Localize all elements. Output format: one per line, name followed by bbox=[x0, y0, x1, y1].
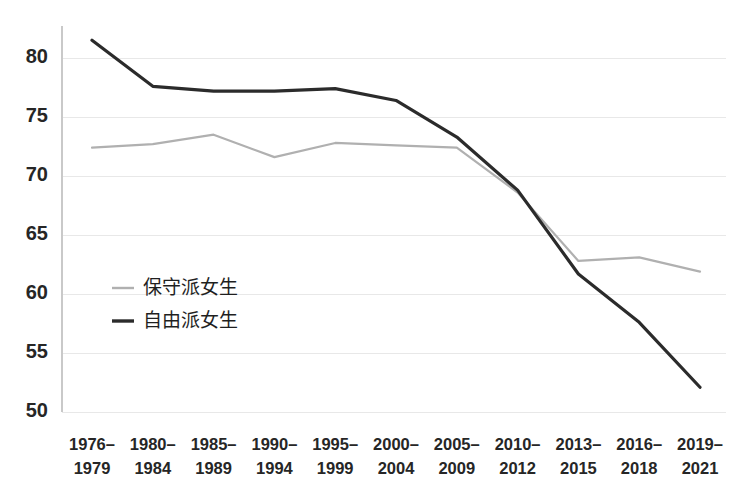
y-tick-55: 55 bbox=[26, 340, 48, 362]
y-tick-75: 75 bbox=[26, 104, 48, 126]
x-tick-label: 1980–1984 bbox=[130, 435, 176, 477]
x-axis-tick-labels: 1976–19791980–19841985–19891990–19941995… bbox=[69, 435, 723, 477]
x-tick-label: 2013–2015 bbox=[555, 435, 601, 477]
line-chart: 50556065707580 1976–19791980–19841985–19… bbox=[0, 0, 756, 495]
series-line-conservative bbox=[92, 135, 700, 272]
y-tick-60: 60 bbox=[26, 281, 48, 303]
y-tick-80: 80 bbox=[26, 45, 48, 67]
x-tick-label: 2000–2004 bbox=[373, 435, 419, 477]
x-tick-label: 2016–2018 bbox=[616, 435, 662, 477]
y-tick-65: 65 bbox=[26, 222, 48, 244]
chart-legend: 保守派女生自由派女生 bbox=[112, 277, 238, 331]
x-tick-label: 2005–2009 bbox=[434, 435, 480, 477]
y-axis-tick-labels: 50556065707580 bbox=[26, 45, 48, 421]
series-line-liberal bbox=[92, 40, 700, 387]
gridlines bbox=[62, 58, 726, 412]
data-series bbox=[92, 40, 700, 387]
legend-label-conservative: 保守派女生 bbox=[143, 277, 238, 298]
x-tick-label: 1985–1989 bbox=[191, 435, 237, 477]
chart-canvas: 50556065707580 1976–19791980–19841985–19… bbox=[0, 0, 756, 495]
y-tick-70: 70 bbox=[26, 163, 48, 185]
x-tick-label: 2019–2021 bbox=[677, 435, 723, 477]
x-tick-label: 2010–2012 bbox=[495, 435, 541, 477]
x-tick-label: 1976–1979 bbox=[69, 435, 115, 477]
x-tick-label: 1990–1994 bbox=[251, 435, 297, 477]
y-tick-50: 50 bbox=[26, 399, 48, 421]
x-tick-label: 1995–1999 bbox=[312, 435, 358, 477]
legend-label-liberal: 自由派女生 bbox=[143, 310, 238, 331]
